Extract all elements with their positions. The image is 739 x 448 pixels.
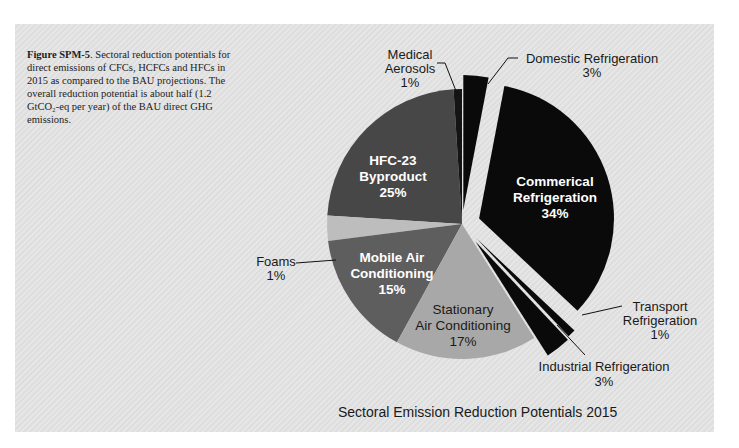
label-industrial-pct: 3% (595, 374, 614, 389)
label-mobile-pct: 15% (378, 282, 405, 297)
label-foams-pct: 1% (267, 268, 286, 283)
label-mobile-1: Mobile Air (360, 250, 425, 265)
label-medical-1: Medical (388, 47, 433, 62)
label-domestic: Domestic Refrigeration (526, 51, 658, 66)
pie-chart: Medical Aerosols 1% Domestic Refrigerati… (0, 0, 739, 448)
label-commercial-2: Refrigeration (513, 190, 597, 205)
chart-title: Sectoral Emission Reduction Potentials 2… (338, 404, 617, 420)
label-foams: Foams (256, 254, 296, 269)
label-domestic-pct: 3% (583, 65, 602, 80)
label-transport-1: Transport (632, 299, 688, 314)
label-stationary-1: Stationary (433, 302, 494, 317)
label-stationary-pct: 17% (449, 334, 476, 349)
label-hfc23-1: HFC-23 (369, 153, 417, 168)
label-medical-2: Aerosols (385, 61, 436, 76)
label-transport-pct: 1% (651, 327, 670, 342)
label-mobile-2: Conditioning (350, 266, 433, 281)
label-commercial-pct: 34% (541, 206, 568, 221)
leader-domestic (488, 58, 508, 84)
label-medical-pct: 1% (401, 75, 420, 90)
label-stationary-2: Air Conditioning (415, 318, 510, 333)
label-industrial: Industrial Refrigeration (539, 359, 670, 374)
label-commercial-1: Commerical (516, 174, 593, 189)
leader-transport (582, 306, 622, 315)
leader-foams (296, 260, 336, 263)
label-transport-2: Refrigeration (623, 313, 697, 328)
label-hfc23-pct: 25% (379, 185, 406, 200)
label-hfc23-2: Byproduct (359, 169, 427, 184)
